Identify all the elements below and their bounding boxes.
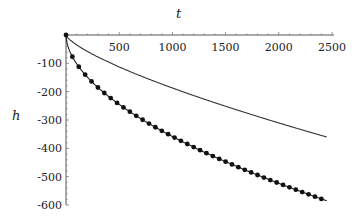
data-point-marker [223,159,228,164]
data-point-marker [102,91,107,96]
data-point-marker [64,33,69,38]
data-point-marker [121,105,126,110]
data-point-marker [191,145,196,150]
x-tick-label: 1000 [158,41,186,54]
x-tick-label: 500 [109,41,130,54]
y-tick-label: -200 [37,86,62,99]
data-point-marker [83,72,88,77]
data-point-marker [115,100,120,105]
data-point-marker [313,194,318,199]
y-tick-label: -600 [37,199,62,212]
data-point-marker [210,154,215,159]
data-point-marker [287,185,292,190]
data-point-marker [108,96,113,101]
y-tick-label: -500 [37,171,62,184]
data-point-marker [179,138,184,143]
data-point-marker [300,190,305,195]
data-point-marker [306,192,311,197]
axes: 5001000150020002500-100-200-300-400-500-… [37,32,346,212]
data-point-marker [255,173,260,178]
data-point-marker [76,64,81,69]
data-point-marker [249,170,254,175]
data-point-marker [147,121,152,126]
x-axis-label: t [176,6,182,21]
x-tick-label: 2000 [265,41,293,54]
data-point-marker [242,167,247,172]
x-tick-label: 2500 [318,41,346,54]
y-axis-label: h [12,108,20,123]
data-point-marker [127,109,132,114]
data-point-marker [172,135,177,140]
data-point-marker [268,178,273,183]
data-point-marker [70,54,75,59]
data-point-marker [198,148,203,153]
y-tick-label: -300 [37,114,62,127]
data-point-marker [281,183,286,188]
lower-curve [66,35,327,201]
data-point-marker [153,125,158,130]
data-point-marker [236,165,241,170]
y-tick-label: -400 [37,142,62,155]
data-point-marker [166,132,171,137]
chart: 5001000150020002500-100-200-300-400-500-… [0,0,355,222]
data-point-marker [230,162,235,167]
data-point-marker [89,79,94,84]
series-group [64,33,327,202]
x-tick-label: 1500 [212,41,240,54]
data-point-marker [140,117,145,122]
data-point-marker [262,175,267,180]
y-tick-label: -100 [37,57,62,70]
data-point-marker [217,156,222,161]
data-point-marker [319,196,324,201]
data-point-marker [96,85,101,90]
data-point-marker [274,180,279,185]
data-point-marker [134,113,139,118]
data-point-marker [204,151,209,156]
data-point-marker [159,128,164,133]
data-point-marker [185,142,190,147]
data-point-marker [293,187,298,192]
